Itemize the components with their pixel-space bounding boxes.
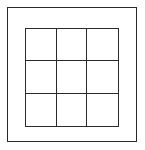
grid-3x3 xyxy=(25,28,119,127)
grid-cell xyxy=(57,61,88,93)
grid-cell xyxy=(87,61,118,93)
grid-cell xyxy=(26,94,57,126)
grid-cell xyxy=(87,94,118,126)
grid-cell xyxy=(26,61,57,93)
grid-cell xyxy=(26,29,57,61)
grid-cell xyxy=(87,29,118,61)
grid-cell xyxy=(57,29,88,61)
grid-cell xyxy=(57,94,88,126)
